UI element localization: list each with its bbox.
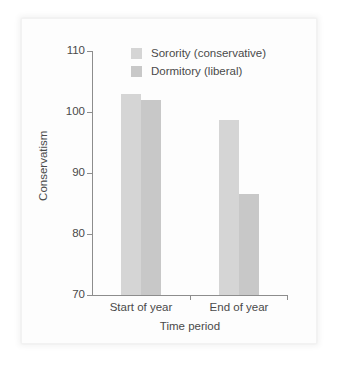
y-tick-label: 110 [42,45,85,57]
y-tick-label: 80 [42,228,85,240]
y-tick-label-text: 110 [45,45,85,57]
y-tick-label-text: 70 [45,289,85,301]
bar [121,94,141,295]
bar-chart: 708090100110 Start of yearEnd of year Co… [0,0,340,375]
y-tick-mark [87,173,92,174]
bar [141,100,161,295]
legend-entry: Dormitory (liberal) [131,64,266,79]
y-tick-label-text: 100 [45,106,85,118]
y-tick-mark [87,295,92,296]
y-tick-label-text: 80 [45,228,85,240]
bar [219,120,239,295]
y-tick-label: 70 [42,289,85,301]
legend-label: Sorority (conservative) [151,48,266,60]
legend-swatch-icon [131,48,142,59]
y-tick-mark [87,112,92,113]
legend-entry: Sorority (conservative) [131,46,266,61]
x-axis-title: Time period [92,321,288,333]
y-tick-label-text: 90 [45,167,85,179]
legend-swatch-icon [131,66,142,77]
x-tick-mark [190,295,191,300]
x-tick-label: End of year [179,302,299,314]
y-axis-line [92,51,93,296]
bar [239,194,259,295]
chart-legend: Sorority (conservative)Dormitory (libera… [131,46,266,82]
y-tick-mark [87,234,92,235]
y-tick-mark [87,51,92,52]
legend-label: Dormitory (liberal) [151,66,242,78]
y-axis-title: Conservatism [38,106,50,226]
x-tick-mark [287,295,288,300]
